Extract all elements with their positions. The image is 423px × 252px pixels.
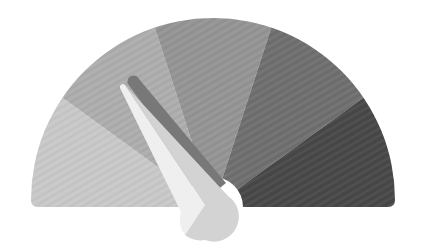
gauge-illustration xyxy=(0,0,423,252)
gauge-graphic xyxy=(0,0,423,252)
